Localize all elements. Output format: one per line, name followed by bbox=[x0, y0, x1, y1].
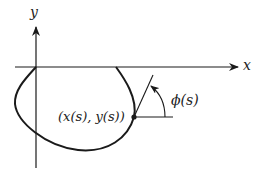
angle-label: ϕ(s) bbox=[171, 93, 199, 107]
point-label: (x(s), y(s)) bbox=[58, 110, 125, 123]
tangent-line bbox=[134, 75, 153, 117]
y-axis-label: y bbox=[30, 5, 38, 19]
diagram-figure: y x (x(s), y(s)) ϕ(s) bbox=[0, 0, 265, 177]
diagram-canvas bbox=[0, 0, 265, 177]
angle-arc-arrow bbox=[151, 86, 165, 117]
x-axis-label: x bbox=[243, 58, 251, 72]
